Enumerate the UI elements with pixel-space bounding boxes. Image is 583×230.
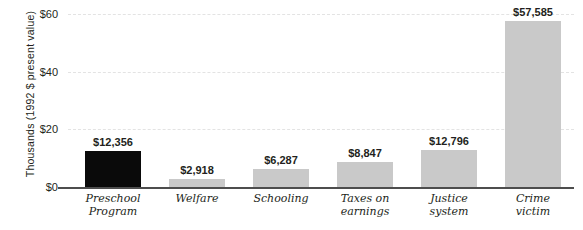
category-label-line: Preschool [67, 192, 159, 205]
y-axis-tick-label: $0 [14, 181, 58, 193]
x-axis-category-label: Taxes onearnings [319, 192, 411, 218]
x-axis-category-label: PreschoolProgram [67, 192, 159, 218]
gridline [68, 14, 574, 15]
bar-value-label: $12,796 [429, 135, 469, 147]
bar-value-label: $8,847 [348, 147, 382, 159]
bar: $2,918 [169, 179, 225, 187]
gridline [68, 129, 574, 130]
bar: $8,847 [337, 162, 393, 188]
category-label-line: Taxes on [319, 192, 411, 205]
y-axis-tick-label: $40 [14, 66, 58, 78]
x-axis-line [58, 187, 574, 189]
plot-area: $12,356$2,918$6,287$8,847$12,796$57,585 [68, 0, 574, 188]
x-axis-category-label: Welfare [151, 192, 243, 205]
bar: $6,287 [253, 169, 309, 187]
category-label-line: system [403, 205, 495, 218]
category-label-line: Welfare [151, 192, 243, 205]
category-label-line: earnings [319, 205, 411, 218]
bar: $12,796 [421, 150, 477, 187]
bar: $12,356 [85, 151, 141, 187]
y-axis-title: Thousands (1992 $ present value) [24, 4, 36, 184]
bar: $57,585 [505, 21, 561, 187]
category-label-line: Justice [403, 192, 495, 205]
gridline [68, 72, 574, 73]
y-axis-tick-label: $60 [14, 8, 58, 20]
bar-value-label: $57,585 [513, 6, 553, 18]
x-axis-category-label: Crimevictim [487, 192, 579, 218]
category-label-line: Schooling [235, 192, 327, 205]
y-axis-tick-label: $20 [14, 123, 58, 135]
bar-chart: Thousands (1992 $ present value) $0$20$4… [0, 0, 583, 230]
category-label-line: Crime [487, 192, 579, 205]
category-label-line: victim [487, 205, 579, 218]
category-label-line: Program [67, 205, 159, 218]
x-axis-category-label: Schooling [235, 192, 327, 205]
bar-value-label: $6,287 [264, 154, 298, 166]
bar-value-label: $12,356 [93, 136, 133, 148]
bar-value-label: $2,918 [180, 164, 214, 176]
x-axis-category-label: Justicesystem [403, 192, 495, 218]
